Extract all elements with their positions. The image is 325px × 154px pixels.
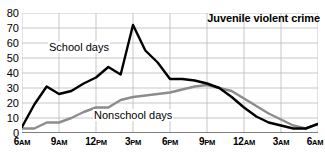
series-label-nonschool-days: Nonschool days <box>93 109 173 121</box>
x-axis: 6AM9AM12PM3PM6PM9PM12AM3AM6AM <box>0 136 325 154</box>
x-tick-meridiem: AM <box>312 138 323 147</box>
x-axis-tick-label: 12AM <box>233 136 255 147</box>
x-axis-tick-label: 3AM <box>273 136 290 147</box>
juvenile-violent-crime-chart: 80706050403020100 Juvenile violent crime… <box>0 0 325 154</box>
x-axis-tick-label: 9AM <box>51 136 68 147</box>
x-axis-tick-label: 6AM <box>14 136 31 147</box>
cropped-header-text <box>0 0 325 4</box>
x-tick-meridiem: PM <box>130 138 141 147</box>
x-tick-hour: 12 <box>233 136 244 147</box>
x-axis-tick-label: 6AM <box>307 136 324 147</box>
x-tick-meridiem: PM <box>96 138 107 147</box>
x-axis-tick-label: 3PM <box>125 136 141 147</box>
y-axis-tick-label: 20 <box>7 98 19 109</box>
y-axis: 80706050403020100 <box>0 0 19 154</box>
y-axis-tick-label: 80 <box>7 8 19 19</box>
x-axis-tick-label: 6PM <box>162 136 178 147</box>
y-axis-tick-label: 40 <box>7 68 19 79</box>
x-axis-tick-label: 12PM <box>85 136 107 147</box>
y-axis-tick-label: 50 <box>7 53 19 64</box>
series-label-school-days: School days <box>48 41 110 53</box>
x-tick-meridiem: AM <box>56 138 67 147</box>
y-axis-tick-label: 30 <box>7 83 19 94</box>
y-axis-tick-label: 10 <box>7 113 19 124</box>
x-tick-hour: 12 <box>85 136 96 147</box>
x-tick-meridiem: AM <box>278 138 289 147</box>
x-axis-tick-label: 9PM <box>199 136 215 147</box>
x-tick-meridiem: AM <box>19 138 30 147</box>
x-tick-meridiem: PM <box>204 138 215 147</box>
y-axis-tick-label: 70 <box>7 23 19 34</box>
y-axis-tick-label: 60 <box>7 38 19 49</box>
chart-title: Juvenile violent crime <box>207 12 320 24</box>
x-tick-meridiem: PM <box>167 138 178 147</box>
x-tick-meridiem: AM <box>244 138 255 147</box>
